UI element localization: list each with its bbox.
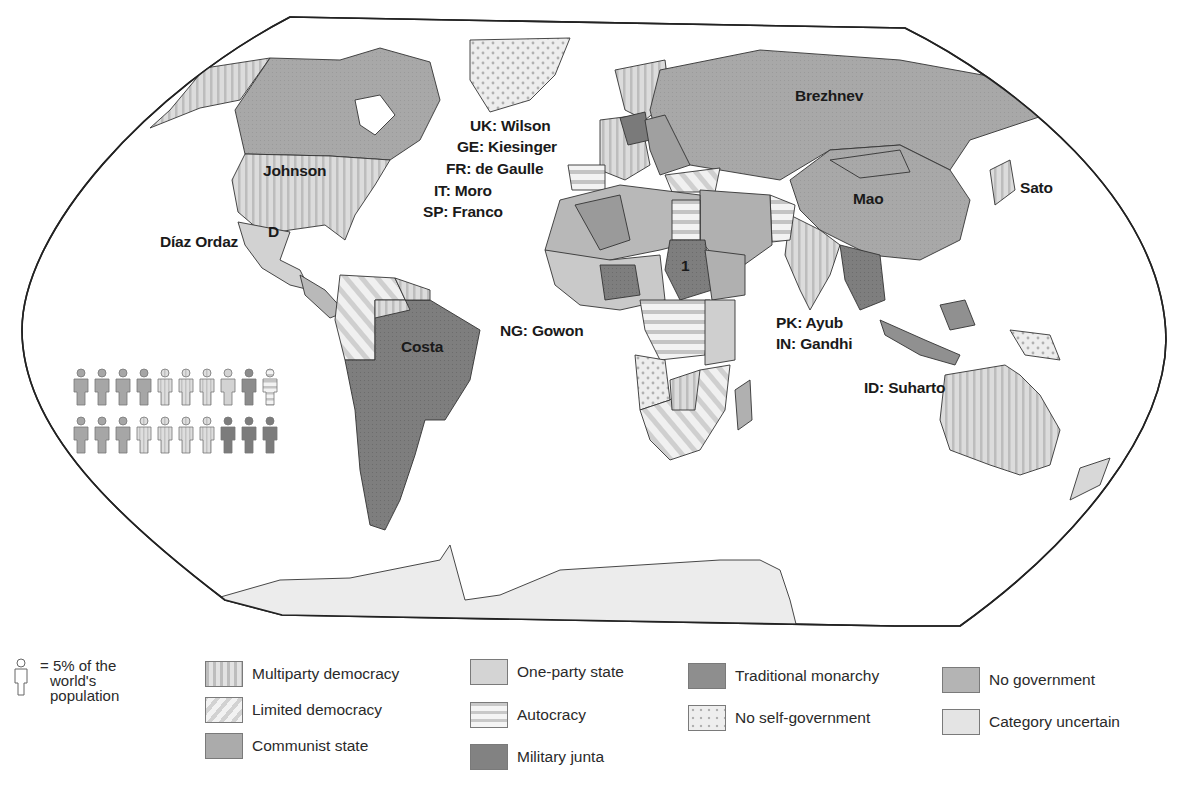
- label-sp: SP: Franco: [423, 204, 503, 220]
- label-it: IT: Moro: [434, 183, 492, 199]
- person-icon-multiparty: [156, 416, 174, 454]
- region-nigeria: [600, 265, 640, 300]
- legend-label: Limited democracy: [252, 701, 382, 719]
- label-uk: UK: Wilson: [470, 118, 551, 134]
- uncertain-swatch: [942, 709, 980, 735]
- person-icon-multiparty: [177, 368, 195, 406]
- communist-swatch: [205, 733, 243, 759]
- region-spain: [568, 165, 605, 190]
- person-icon-communist: [114, 368, 132, 406]
- legend-label: Autocracy: [517, 706, 586, 724]
- legend-label: No self-government: [735, 709, 870, 727]
- person-icon-multiparty: [198, 416, 216, 454]
- label-sato: Sato: [1020, 180, 1053, 196]
- label-id: ID: Suharto: [864, 380, 945, 396]
- population-key-line2: world's: [50, 673, 119, 688]
- person-icon-communist: [72, 368, 90, 406]
- oneparty-swatch: [470, 659, 508, 685]
- region-ethiopia: [705, 250, 745, 300]
- population-key-line3: population: [50, 688, 119, 703]
- population-key-line1: = 5% of the: [40, 658, 119, 673]
- legend-item-monarchy: Traditional monarchy: [688, 663, 879, 689]
- legend-label: Multiparty democracy: [252, 665, 399, 683]
- person-icon-traditional-monarchy: [240, 368, 258, 406]
- pictogram-row-2: [72, 416, 282, 454]
- label-pk: PK: Ayub: [776, 315, 843, 331]
- legend-label: Category uncertain: [989, 713, 1120, 731]
- label-fr: FR: de Gaulle: [446, 161, 543, 177]
- person-icon-communist: [114, 416, 132, 454]
- nogov-swatch: [942, 667, 980, 693]
- population-pictogram: [72, 368, 282, 464]
- person-icon-military-junta: [240, 416, 258, 454]
- noself-swatch: [688, 705, 726, 731]
- legend-item-nogov: No government: [942, 667, 1095, 693]
- pictogram-row-1: [72, 368, 282, 406]
- label-costa: Costa: [401, 339, 443, 355]
- legend-item-communist: Communist state: [205, 733, 368, 759]
- legend-label: One-party state: [517, 663, 624, 681]
- region-east-africa: [705, 300, 735, 365]
- population-key: = 5% of the world's population: [12, 658, 119, 703]
- person-icon-autocracy: [261, 368, 279, 406]
- label-in: IN: Gandhi: [776, 336, 852, 352]
- person-icon-military-junta: [219, 416, 237, 454]
- legend-item-multiparty: Multiparty democracy: [205, 661, 399, 687]
- person-icon-multiparty: [177, 416, 195, 454]
- legend-label: Military junta: [517, 748, 604, 766]
- legend-item-limited: Limited democracy: [205, 697, 382, 723]
- junta-swatch: [470, 744, 508, 770]
- legend-label: No government: [989, 671, 1095, 689]
- legend-item-oneparty: One-party state: [470, 659, 624, 685]
- person-icon-military-junta: [261, 416, 279, 454]
- person-icon-communist: [72, 416, 90, 454]
- legend-label: Traditional monarchy: [735, 667, 879, 685]
- person-icon-communist: [93, 416, 111, 454]
- region-canada: [235, 48, 440, 160]
- monarchy-swatch: [688, 663, 726, 689]
- world-map: [0, 0, 1182, 640]
- person-icon-communist: [93, 368, 111, 406]
- limited-swatch: [205, 697, 243, 723]
- label-ge: GE: Kiesinger: [457, 139, 557, 155]
- legend-item-uncertain: Category uncertain: [942, 709, 1120, 735]
- autocracy-swatch: [470, 702, 508, 728]
- label-mao: Mao: [853, 191, 883, 207]
- label-sudan-marker: 1: [681, 258, 689, 274]
- person-icon-multiparty: [156, 368, 174, 406]
- legend-item-noself: No self-government: [688, 705, 870, 731]
- region-egypt: [672, 200, 700, 240]
- person-icon-multiparty: [135, 416, 153, 454]
- person-icon-one-party: [219, 368, 237, 406]
- legend-item-junta: Military junta: [470, 744, 604, 770]
- label-diaz-ordaz: Díaz Ordaz: [160, 234, 238, 250]
- person-icon: [12, 658, 30, 696]
- label-ng: NG: Gowon: [500, 323, 583, 339]
- legend-label: Communist state: [252, 737, 368, 755]
- label-brezhnev: Brezhnev: [795, 88, 863, 104]
- label-mexico-marker: D: [268, 224, 279, 240]
- label-johnson: Johnson: [263, 163, 326, 179]
- legend-item-autocracy: Autocracy: [470, 702, 586, 728]
- multiparty-swatch: [205, 661, 243, 687]
- person-icon-multiparty: [198, 368, 216, 406]
- person-icon-communist: [135, 368, 153, 406]
